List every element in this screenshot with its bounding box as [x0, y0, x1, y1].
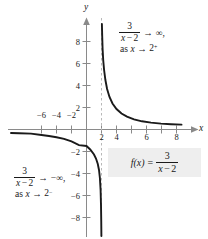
y-axis-label: y — [84, 2, 88, 12]
denominator-number: 2 — [134, 34, 139, 44]
fraction-3-over-x-minus-2: 3 x − 2 — [14, 167, 35, 188]
y-tick-label-2: 2 — [66, 103, 80, 113]
condition-variable: x — [130, 44, 134, 54]
fraction-numerator: 3 — [125, 22, 134, 32]
function-definition-label: f(x) = 3 x − 2 — [108, 148, 201, 177]
annotation-right-limit-condition: as x → 2 + — [119, 44, 165, 54]
y-tick-label--2: −2 — [62, 147, 80, 157]
function-name: f(x) — [131, 158, 145, 168]
y-tick-label-8: 8 — [66, 37, 80, 47]
fraction-denominator: x − 2 — [156, 164, 178, 174]
y-axis — [83, 18, 90, 238]
limit-value: −∞, — [51, 173, 66, 183]
annotation-left-limit-expression: 3 x − 2 → −∞, — [14, 167, 65, 188]
annotation-right-limit-expression: 3 x − 2 → ∞, — [119, 22, 165, 43]
condition-arrow-icon: → — [32, 189, 42, 199]
annotation-right-limit: 3 x − 2 → ∞, as x → 2 + — [119, 22, 165, 54]
limit-arrow-icon: → — [142, 28, 154, 38]
denominator-operator: − — [163, 164, 172, 174]
fraction-3-over-x-minus-2: 3 x − 2 — [119, 22, 140, 43]
denominator-operator: − — [125, 34, 133, 44]
x-tick-label-8: 8 — [169, 132, 184, 142]
y-tick-label-4: 4 — [66, 81, 80, 91]
limit-arrow-icon: → — [37, 173, 49, 183]
function-definition-expression: f(x) = 3 x − 2 — [131, 151, 179, 173]
annotation-left-limit: 3 x − 2 → −∞, as x → 2 − — [14, 167, 65, 199]
condition-target: 2 + — [149, 44, 157, 54]
x-tick-label-2: 2 — [94, 132, 109, 142]
fraction-3-over-x-minus-2: 3 x − 2 — [156, 151, 178, 173]
annotation-left-limit-condition: as x → 2 − — [14, 189, 65, 199]
condition-arrow-icon: → — [137, 44, 147, 54]
limit-value: ∞, — [156, 28, 165, 38]
condition-variable: x — [25, 189, 29, 199]
fraction-numerator: 3 — [163, 151, 172, 161]
plot-area — [0, 0, 208, 239]
denominator-number: 2 — [29, 179, 34, 189]
figure-rational-function-graph: −6 −4 −2 2 4 6 8 8 6 4 2 −2 −4 −6 −8 y x… — [0, 0, 208, 239]
condition-target: 2 − — [44, 189, 52, 199]
y-tick-label--8: −8 — [62, 213, 80, 223]
as-keyword: as — [15, 189, 23, 199]
equals-sign: = — [145, 158, 157, 168]
as-keyword: as — [120, 44, 128, 54]
fraction-denominator: x − 2 — [119, 34, 140, 44]
x-axis-label: x — [199, 123, 203, 133]
x-tick-label-4: 4 — [109, 132, 124, 142]
y-tick-label-6: 6 — [66, 59, 80, 69]
fraction-denominator: x − 2 — [14, 179, 35, 189]
denominator-number: 2 — [171, 164, 176, 174]
x-tick-label-6: 6 — [139, 132, 154, 142]
denominator-operator: − — [20, 179, 28, 189]
fraction-numerator: 3 — [20, 167, 29, 177]
